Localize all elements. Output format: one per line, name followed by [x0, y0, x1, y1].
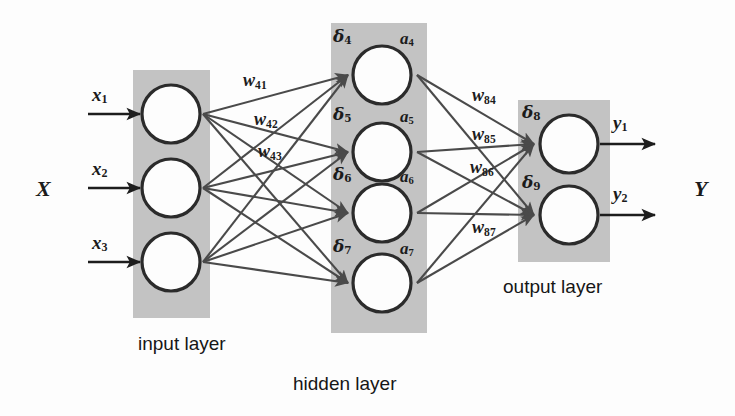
output-bundle-label: Y	[694, 178, 707, 200]
connections-input-hidden	[203, 75, 348, 283]
output-signal-y1: y1	[613, 113, 627, 133]
node-input-2[interactable]	[142, 159, 200, 217]
node-hidden-7[interactable]	[353, 254, 411, 312]
weight-label-w85: w85	[472, 125, 496, 146]
weight-label-w87: w87	[472, 218, 496, 239]
delta-label-7: δ7	[333, 238, 352, 256]
weight-label-w43: w43	[258, 142, 282, 163]
delta-label-9: δ9	[522, 174, 541, 192]
node-hidden-6[interactable]	[353, 184, 411, 242]
delta-label-5: δ5	[333, 106, 352, 124]
node-input-3[interactable]	[142, 233, 200, 291]
node-hidden-4[interactable]	[353, 46, 411, 104]
output-signal-y2: y2	[613, 184, 627, 204]
input-signal-x3: x3	[92, 233, 108, 253]
activation-label-4: a4	[400, 30, 414, 49]
node-input-1[interactable]	[142, 85, 200, 143]
weight-label-w41: w41	[243, 71, 267, 92]
input-signal-x1: x1	[92, 85, 108, 105]
neural-network-diagram: X x1 x2 x3 w41 w42 w43 δ4 δ5 δ6 δ7 a4 a5…	[0, 0, 735, 416]
input-layer-nodes	[142, 85, 200, 291]
activation-label-5: a5	[400, 108, 414, 127]
weight-label-w84: w84	[472, 86, 496, 107]
input-bundle-label: X	[36, 178, 51, 200]
input-signal-x2: x2	[92, 159, 108, 179]
activation-label-6: a6	[400, 168, 414, 187]
node-output-9[interactable]	[540, 186, 598, 244]
weight-label-w42: w42	[254, 110, 278, 131]
activation-label-7: a7	[400, 240, 414, 259]
node-output-8[interactable]	[540, 115, 598, 173]
caption-output-layer: output layer	[503, 277, 602, 296]
weight-label-w86: w86	[470, 158, 494, 179]
network-graphics	[0, 0, 735, 416]
delta-label-8: δ8	[522, 104, 541, 122]
caption-input-layer: input layer	[138, 334, 226, 353]
caption-hidden-layer: hidden layer	[293, 374, 397, 393]
delta-label-4: δ4	[333, 28, 352, 46]
delta-label-6: δ6	[333, 166, 352, 184]
